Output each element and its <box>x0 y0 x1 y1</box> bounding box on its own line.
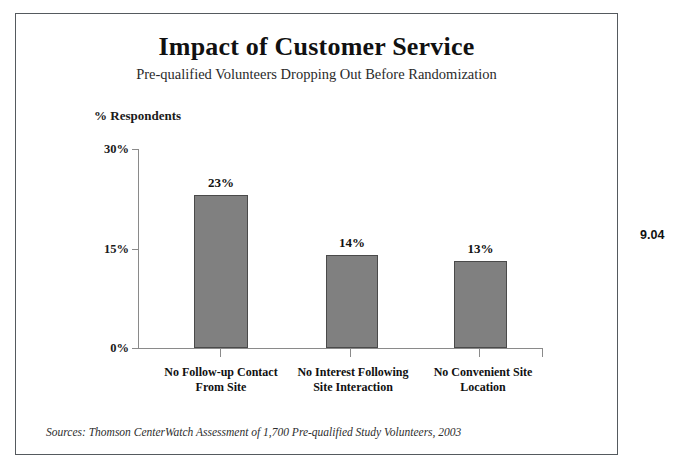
chart-subtitle: Pre-qualified Volunteers Dropping Out Be… <box>16 66 617 83</box>
bar-value-label-1: 23% <box>208 175 234 191</box>
category-label-3: No Convenient Site Location <box>408 365 558 395</box>
y-tick-label-30: 30% <box>104 142 129 157</box>
category-separator-1 <box>220 348 221 357</box>
figure-number: 9.04 <box>640 228 664 242</box>
bar-no-interest-following[interactable]: 14% <box>326 255 378 348</box>
category-label-1: No Follow-up Contact From Site <box>146 365 296 395</box>
category-separator-2 <box>350 348 351 357</box>
chart-title: Impact of Customer Service <box>16 32 617 62</box>
y-tick-label-15: 15% <box>104 241 129 256</box>
category-label-1-line-1: No Follow-up Contact <box>146 365 296 380</box>
bar-value-label-3: 13% <box>468 241 494 257</box>
category-label-1-line-2: From Site <box>146 380 296 395</box>
x-axis-line <box>138 348 542 349</box>
bar-no-follow-up-contact[interactable]: 23% <box>194 195 248 348</box>
category-label-3-line-1: No Convenient Site <box>408 365 558 380</box>
plot-area: 30% 15% 0% 23% 14% 13% No Follow-up Cont… <box>138 149 543 349</box>
category-separator-3 <box>479 348 480 357</box>
category-separator-4 <box>542 348 543 357</box>
y-axis-line <box>138 149 139 349</box>
chart-frame: Impact of Customer Service Pre-qualified… <box>15 13 618 455</box>
category-label-3-line-2: Location <box>408 380 558 395</box>
y-tick-label-0: 0% <box>110 341 129 356</box>
y-axis-title: % Respondents <box>94 108 181 124</box>
source-note: Sources: Thomson CenterWatch Assessment … <box>46 426 461 438</box>
bar-no-convenient-site[interactable]: 13% <box>454 261 507 348</box>
bar-value-label-2: 14% <box>339 235 365 251</box>
category-label-2: No Interest Following Site Interaction <box>278 365 428 395</box>
category-label-2-line-2: Site Interaction <box>278 380 428 395</box>
category-label-2-line-1: No Interest Following <box>278 365 428 380</box>
